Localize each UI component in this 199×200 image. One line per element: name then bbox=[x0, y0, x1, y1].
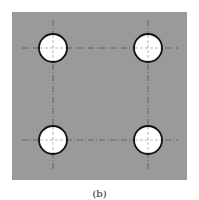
plate bbox=[12, 12, 187, 180]
plate-diagram bbox=[0, 0, 199, 200]
figure-caption: (b) bbox=[0, 188, 199, 199]
